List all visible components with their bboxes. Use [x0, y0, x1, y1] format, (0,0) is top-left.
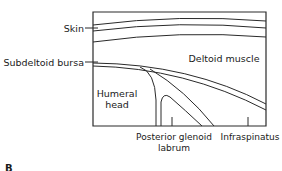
label-infraspinatus: Infraspinatus: [221, 132, 280, 142]
label-humeral-head-2: head: [105, 99, 129, 110]
posterior-glenoid-labrum: [161, 95, 202, 126]
label-posterior-glenoid-2: labrum: [158, 143, 190, 153]
label-posterior-glenoid-1: Posterior glenoid: [136, 132, 212, 142]
label-deltoid-muscle: Deltoid muscle: [189, 53, 260, 64]
leader-lines: [85, 28, 248, 126]
panel-label: B: [5, 163, 13, 171]
skin-layers: [93, 18, 266, 42]
humeral-head-contour: [140, 67, 156, 126]
label-subdeltoid-bursa: Subdeltoid bursa: [3, 57, 84, 68]
label-skin: Skin: [64, 23, 84, 34]
label-humeral-head-1: Humeral: [97, 88, 138, 99]
shoulder-anatomy-diagram: Skin Subdeltoid bursa Deltoid muscle Hum…: [0, 0, 282, 171]
